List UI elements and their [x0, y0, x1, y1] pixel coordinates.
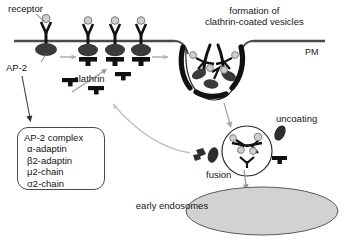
label-pm: PM: [305, 47, 319, 58]
stage-arrow-2: [152, 55, 168, 60]
clathrin-triskelion-icon: [272, 156, 287, 164]
ap2-to-box-arrow: [22, 76, 32, 122]
early-endosome-ellipse-icon: [186, 187, 338, 235]
ap2-ellipse-icon: [272, 124, 288, 143]
recycling-curve-icon: [113, 104, 190, 153]
clathrin-triskelion-icon: [115, 72, 131, 80]
label-uncoating: uncoating: [276, 113, 317, 124]
label-formation-line2: clathrin-coated vesicles: [205, 16, 304, 27]
clathrin-triskelion-icon: [88, 86, 104, 94]
ap2-ellipse-icon: [131, 44, 151, 56]
ap2-ellipse-icon: [193, 148, 206, 161]
ap2-ellipse-icon: [78, 44, 98, 56]
budding-arrow-down: [224, 103, 232, 128]
label-formation-title: formation of clathrin-coated vesicles: [205, 5, 304, 27]
clathrin-triskelion-icon: [132, 57, 150, 66]
ap2-subunit-mu2: μ2-chain: [18, 166, 104, 177]
ap2-box-title: AP-2 complex: [18, 132, 104, 143]
coated-pit-icon: [175, 41, 253, 100]
clathrin-triskelion-icon: [79, 57, 97, 66]
label-early-endosomes: early endosomes: [0, 200, 344, 211]
diagram-canvas: receptor AP-2 clathrin formation of clat…: [0, 0, 344, 244]
label-clathrin: clathrin: [74, 73, 105, 84]
label-ap2: AP-2: [6, 62, 27, 73]
ap2-ellipse-icon: [105, 44, 125, 56]
ap2-subunit-sigma2: σ2-chain: [18, 178, 104, 189]
label-formation-line1: formation of: [205, 5, 304, 16]
ap2-subunit-beta2: β2-adaptin: [18, 155, 104, 166]
label-receptor: receptor: [8, 3, 43, 14]
clathrin-triskelion-icon: [106, 57, 124, 66]
label-fusion: fusion: [206, 169, 231, 180]
ap2-complex-box: AP-2 complex α-adaptin β2-adaptin μ2-cha…: [17, 127, 105, 190]
stage-arrow-1: [60, 55, 76, 60]
ap2-subunit-alpha: α-adaptin: [18, 143, 104, 154]
ap2-ellipse-icon: [206, 146, 220, 164]
receptor-cluster: [78, 17, 151, 66]
